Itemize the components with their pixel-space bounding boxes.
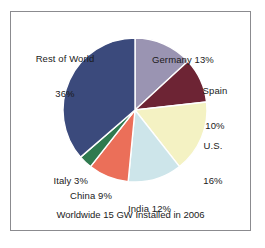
slice-label-rest-of-world: Rest of World 36% bbox=[16, 30, 114, 122]
pie-chart-figure: Rest of World 36% Germany 13% Spain 10% … bbox=[0, 0, 265, 248]
slice-label-rest-of-world-line2: 36% bbox=[16, 88, 114, 100]
chart-caption: Worldwide 15 GW Installed in 2006 bbox=[14, 209, 247, 221]
slice-label-rest-of-world-line1: Rest of World bbox=[16, 53, 114, 65]
slice-label-us-line1: U.S. bbox=[188, 140, 238, 152]
slice-label-italy-line1: Italy 3% bbox=[26, 175, 88, 187]
slice-label-italy: Italy 3% bbox=[26, 152, 88, 210]
slice-label-spain-line1: Spain bbox=[186, 85, 244, 97]
